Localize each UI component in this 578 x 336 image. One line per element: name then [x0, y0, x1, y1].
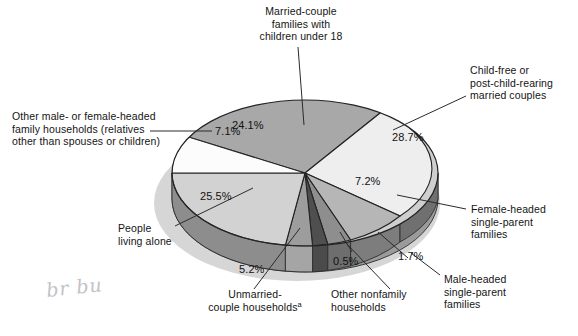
label-male-headed: Male-headed single-parent families [444, 273, 544, 311]
label-female-headed: Female-headed single-parent families [471, 203, 571, 241]
leader-child-free [393, 96, 466, 130]
label-married-with-children: Married-couple families with children un… [240, 5, 362, 43]
label-unmarried-couple-footnote: a [298, 299, 302, 308]
label-unmarried-couple: Unmarried- couple householdsa [196, 288, 314, 313]
pct-other-nonfamily: 0.5% [333, 255, 359, 267]
label-other-family: Other male- or female-headed family hous… [12, 110, 177, 148]
pct-child-free: 28.7% [392, 131, 424, 143]
label-child-free: Child-free or post-child-rearing married… [470, 64, 578, 102]
pct-unmarried-couple: 5.2% [239, 263, 265, 275]
label-other-nonfamily: Other nonfamily households [331, 288, 423, 313]
pct-female-headed: 7.2% [355, 175, 381, 187]
label-unmarried-couple-text: Unmarried- couple households [208, 288, 297, 313]
label-living-alone: People living alone [118, 222, 198, 247]
depth-unmarried-couple [285, 245, 312, 272]
pct-other-family: 7.1% [215, 125, 241, 137]
pct-living-alone: 25.5% [200, 190, 232, 202]
depth-other-nonfamily [313, 244, 328, 272]
pct-male-headed: 1.7% [398, 250, 424, 262]
